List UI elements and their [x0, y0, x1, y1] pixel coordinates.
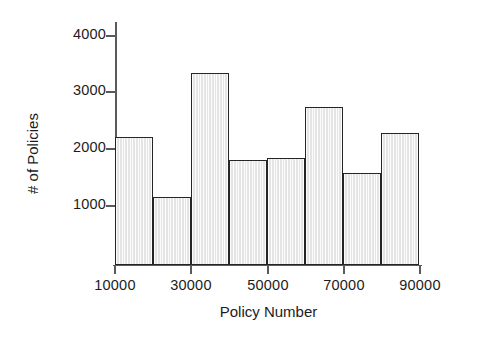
x-axis-title: Policy Number — [115, 303, 422, 320]
x-tick-label-90000: 90000 — [375, 277, 465, 293]
histogram-figure: # of Policies 4000 3000 2000 1000 10000 … — [0, 0, 499, 345]
bar-bin-6 — [305, 107, 343, 266]
bar-bin-1 — [115, 137, 153, 265]
x-tick-mark-10000 — [114, 265, 116, 274]
bar-bin-5 — [267, 158, 305, 265]
bar-bin-2 — [153, 197, 191, 266]
y-tick-label-3000: 3000 — [48, 82, 106, 98]
y-tick-label-4000: 4000 — [48, 26, 106, 42]
bar-bin-3 — [191, 73, 229, 265]
bar-bin-8 — [381, 133, 419, 265]
x-tick-mark-70000 — [343, 265, 345, 274]
x-tick-mark-90000 — [419, 265, 421, 274]
y-axis-title: # of Policies — [24, 74, 41, 234]
bar-bin-7 — [343, 173, 381, 265]
x-tick-mark-30000 — [190, 265, 192, 274]
x-tick-mark-50000 — [267, 265, 269, 274]
y-tick-label-1000: 1000 — [48, 196, 106, 212]
y-tick-label-2000: 2000 — [48, 139, 106, 155]
bar-bin-4 — [229, 160, 267, 265]
